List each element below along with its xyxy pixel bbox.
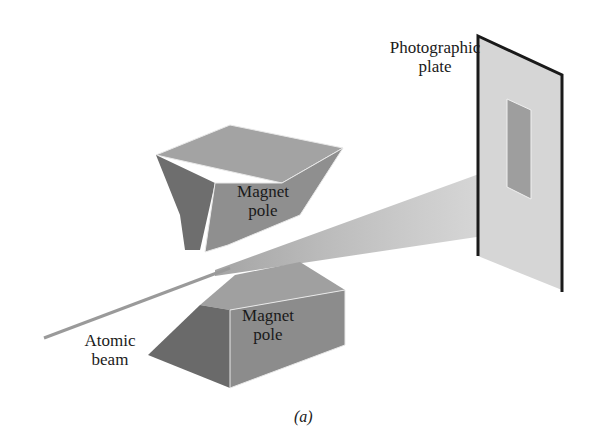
label-line: pole	[228, 201, 298, 220]
plate-trace	[507, 99, 531, 199]
upper-pole-label: Magnet pole	[228, 182, 298, 220]
photographic-plate-label: Photographic plate	[360, 38, 510, 76]
figure-caption: (a)	[294, 408, 313, 426]
stern-gerlach-diagram: Photographic plate Magnet pole Magnet po…	[0, 0, 602, 436]
diagram-graphics	[0, 0, 602, 436]
label-line: Magnet	[233, 306, 303, 325]
label-line: plate	[360, 57, 510, 76]
label-line: Magnet	[228, 182, 298, 201]
label-line: Photographic	[360, 38, 510, 57]
lower-pole-label: Magnet pole	[233, 306, 303, 344]
atomic-beam-label: Atomic beam	[75, 331, 145, 369]
label-line: beam	[75, 350, 145, 369]
label-line: pole	[233, 325, 303, 344]
label-line: Atomic	[75, 331, 145, 350]
